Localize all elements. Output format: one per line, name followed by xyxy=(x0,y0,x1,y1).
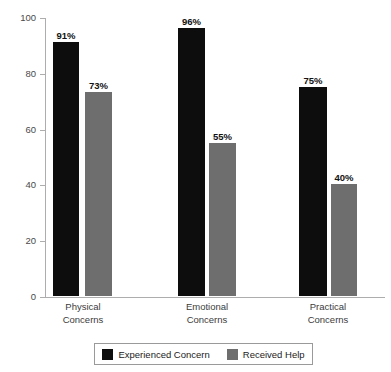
bar: 73% xyxy=(85,92,112,296)
y-axis-tick: 60 xyxy=(40,130,45,131)
y-axis-tick: 0 xyxy=(40,297,45,298)
x-axis-category-label: Emotional Concerns xyxy=(186,301,228,326)
legend-swatch-icon xyxy=(227,349,238,360)
y-axis-tick-label: 40 xyxy=(25,178,36,191)
bar-value-label: 73% xyxy=(89,80,108,91)
y-axis-tick-label: 20 xyxy=(25,234,36,247)
bar: 96% xyxy=(178,28,205,296)
legend-swatch-icon xyxy=(102,349,113,360)
legend-item-experienced-concern: Experienced Concern xyxy=(102,349,209,360)
x-axis-category-line: Practical xyxy=(308,301,349,314)
y-axis-tick-label: 0 xyxy=(31,290,36,303)
legend-label: Received Help xyxy=(243,349,305,360)
bar-chart: 0 20 40 60 80 100 91% 73% 96% 55% xyxy=(0,0,391,372)
bar-value-label: 91% xyxy=(56,30,75,41)
bar: 40% xyxy=(331,184,357,296)
x-axis-category-label: Practical Concerns xyxy=(308,301,349,326)
legend-item-received-help: Received Help xyxy=(227,349,305,360)
x-axis-category-label: Physical Concerns xyxy=(63,301,104,326)
bar-value-label: 96% xyxy=(182,16,201,27)
bar: 91% xyxy=(53,42,79,296)
chart-legend: Experienced Concern Received Help xyxy=(94,343,313,365)
y-axis-tick: 20 xyxy=(40,241,45,242)
y-axis-tick: 80 xyxy=(40,74,45,75)
y-axis-tick: 100 xyxy=(40,18,45,19)
y-axis-tick: 40 xyxy=(40,185,45,186)
x-axis-category-line: Concerns xyxy=(308,314,349,327)
bar: 55% xyxy=(209,143,236,297)
x-axis-category-line: Concerns xyxy=(186,314,228,327)
y-axis-tick-label: 60 xyxy=(25,123,36,136)
legend-label: Experienced Concern xyxy=(118,349,209,360)
bar-value-label: 75% xyxy=(303,75,322,86)
bar-value-label: 40% xyxy=(334,172,353,183)
bar: 75% xyxy=(299,87,327,296)
x-axis-category-line: Physical xyxy=(63,301,104,314)
y-axis-line xyxy=(45,18,46,297)
y-axis-tick-label: 80 xyxy=(25,67,36,80)
x-axis-category-line: Emotional xyxy=(186,301,228,314)
y-axis-tick-label: 100 xyxy=(20,11,36,24)
plot-area: 0 20 40 60 80 100 91% 73% 96% 55% xyxy=(45,18,385,297)
bar-value-label: 55% xyxy=(213,131,232,142)
x-axis-category-line: Concerns xyxy=(63,314,104,327)
x-axis-line xyxy=(45,297,385,298)
